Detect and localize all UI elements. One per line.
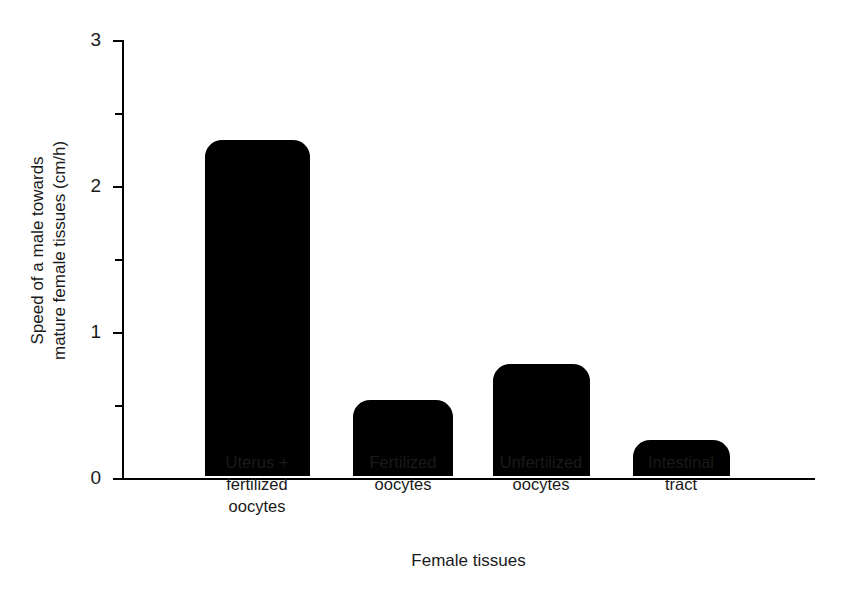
plot-area: 0 1 2 3 <box>122 40 815 478</box>
y-tick-label-2: 2 <box>90 175 101 197</box>
y-axis-line <box>122 40 124 479</box>
x-tick-label-uterus-fertilized-oocytes: Uterus + fertilized oocytes <box>226 452 289 518</box>
x-tick-label-fertilized-oocytes: Fertilized oocytes <box>370 452 437 496</box>
y-tick-minor-2 <box>115 113 122 115</box>
y-axis-title-text: Speed of a male towards mature female ti… <box>28 140 73 359</box>
y-tick-major-1: 1 <box>113 332 122 334</box>
y-tick-minor-1 <box>115 259 122 261</box>
x-tick-label-line: Unfertilized <box>500 452 583 474</box>
x-tick-label-line: Fertilized <box>370 452 437 474</box>
x-tick-label-line: Intestinal <box>648 452 714 474</box>
y-tick-major-2: 2 <box>113 186 122 188</box>
bar-chart-figure: Speed of a male towards mature female ti… <box>0 0 853 602</box>
y-tick-label-1: 1 <box>90 321 101 343</box>
x-axis-title: Female tissues <box>122 551 815 571</box>
x-tick-label-line: tract <box>648 474 714 496</box>
y-tick-minor-0 <box>115 405 122 407</box>
y-tick-label-3: 3 <box>90 29 101 51</box>
y-axis-title-line-1: Speed of a male towards <box>28 140 50 359</box>
y-tick-major-0: 0 <box>113 478 122 480</box>
y-axis-title-line-2: mature female tissues (cm/h) <box>50 140 72 359</box>
x-tick-label-line: Uterus + <box>226 452 289 474</box>
x-tick-label-line: fertilized <box>226 474 289 496</box>
x-tick-label-intestinal-tract: Intestinal tract <box>648 452 714 496</box>
x-tick-label-line: oocytes <box>370 474 437 496</box>
y-axis-title: Speed of a male towards mature female ti… <box>0 0 100 500</box>
x-tick-label-line: oocytes <box>500 474 583 496</box>
x-tick-label-unfertilized-oocytes: Unfertilized oocytes <box>500 452 583 496</box>
y-tick-major-3: 3 <box>113 40 122 42</box>
x-tick-label-line: oocytes <box>226 496 289 518</box>
y-tick-label-0: 0 <box>90 467 101 489</box>
bar-uterus-fertilized-oocytes <box>205 140 310 476</box>
